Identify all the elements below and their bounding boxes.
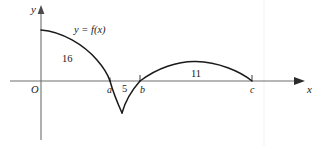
origin-label: O	[31, 85, 39, 96]
area-label-11: 11	[191, 69, 201, 80]
area-label-16: 16	[62, 54, 73, 65]
graph-canvas	[0, 0, 327, 146]
curve-label: y = f(x)	[74, 25, 106, 36]
x-axis-label: x	[307, 84, 312, 95]
figure-graph-of-f: y x O y = f(x) a b c 16 5 11	[0, 0, 327, 146]
y-axis-label: y	[31, 4, 36, 15]
tick-label-b: b	[140, 85, 145, 95]
curve-segment-start-to-a	[41, 30, 110, 81]
area-label-5: 5	[122, 84, 127, 95]
tick-label-a: a	[107, 85, 112, 95]
y-axis-arrowhead	[38, 5, 45, 14]
x-axis-arrowhead	[294, 77, 305, 85]
tick-label-c: c	[250, 85, 254, 95]
